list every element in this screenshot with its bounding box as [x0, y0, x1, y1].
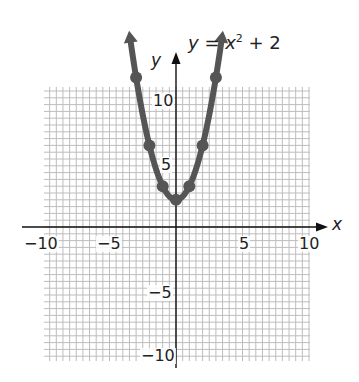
data-point	[130, 71, 142, 83]
x-tick-label: 5	[238, 236, 250, 252]
parabola-graph	[0, 0, 359, 382]
arrowhead-icon	[124, 31, 138, 44]
x-tick-label: 10	[298, 236, 320, 252]
data-point	[157, 180, 169, 192]
x-tick-label: −5	[96, 236, 122, 252]
data-point	[197, 139, 209, 151]
y-axis-label: y	[151, 50, 161, 70]
y-tick-label: −5	[147, 285, 173, 301]
data-point	[143, 139, 155, 151]
x-axis-label: x	[332, 214, 342, 234]
x-tick-label: −10	[23, 236, 59, 252]
grid	[44, 87, 310, 361]
data-point	[183, 180, 195, 192]
data-point	[170, 194, 182, 206]
y-tick-label: 10	[152, 93, 174, 109]
y-tick-label: −10	[140, 348, 176, 364]
chart-title: y = x2 + 2	[188, 32, 281, 53]
y-tick-label: 5	[160, 157, 172, 173]
data-point	[210, 71, 222, 83]
